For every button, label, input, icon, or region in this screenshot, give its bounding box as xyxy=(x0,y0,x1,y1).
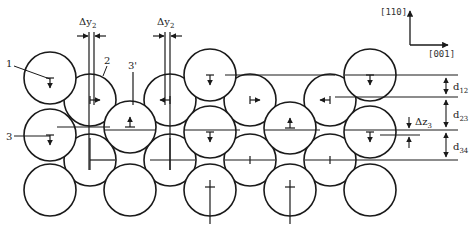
atom-layer-5 xyxy=(184,164,236,224)
d12-label: d12 xyxy=(453,81,468,95)
atom-layer-3 xyxy=(264,102,316,154)
atom-layer-1 xyxy=(24,52,76,104)
atom-layer-5 xyxy=(264,164,316,224)
atom-layer-5 xyxy=(24,164,76,216)
d34-label: d34 xyxy=(453,141,469,155)
atom-circle xyxy=(344,164,396,216)
atom-layer-5 xyxy=(344,164,396,216)
atom-layer-3 xyxy=(344,106,396,158)
atom-layer-5 xyxy=(104,164,156,216)
surface-relaxation-diagram: [110] [001] 1 2 3 3' Δy2 Δy2 Δz3 d12 d23… xyxy=(0,0,473,226)
atom-label-3prime: 3' xyxy=(128,60,137,71)
dz3-label: Δz3 xyxy=(415,116,432,130)
crystal-axes xyxy=(410,11,448,45)
axis-110-label: [110] xyxy=(380,7,407,17)
atom-circle xyxy=(104,164,156,216)
atom-circle xyxy=(24,164,76,216)
dy2-right-label: Δy2 xyxy=(157,16,174,30)
atom-layer-3 xyxy=(24,109,76,161)
atom-label-2: 2 xyxy=(104,55,110,66)
label-2-leader xyxy=(103,66,107,76)
diagram-canvas: [110] [001] 1 2 3 3' Δy2 Δy2 Δz3 d12 d23… xyxy=(0,0,473,226)
atom-layer-3 xyxy=(184,106,236,158)
axis-001-label: [001] xyxy=(428,49,455,59)
atom-label-1: 1 xyxy=(6,58,12,69)
d23-label: d23 xyxy=(453,109,468,123)
atom-label-3: 3 xyxy=(6,131,12,142)
atom-layer-group xyxy=(24,49,396,224)
dy2-left-label: Δy2 xyxy=(79,16,96,30)
atom-layer-3 xyxy=(104,101,156,153)
